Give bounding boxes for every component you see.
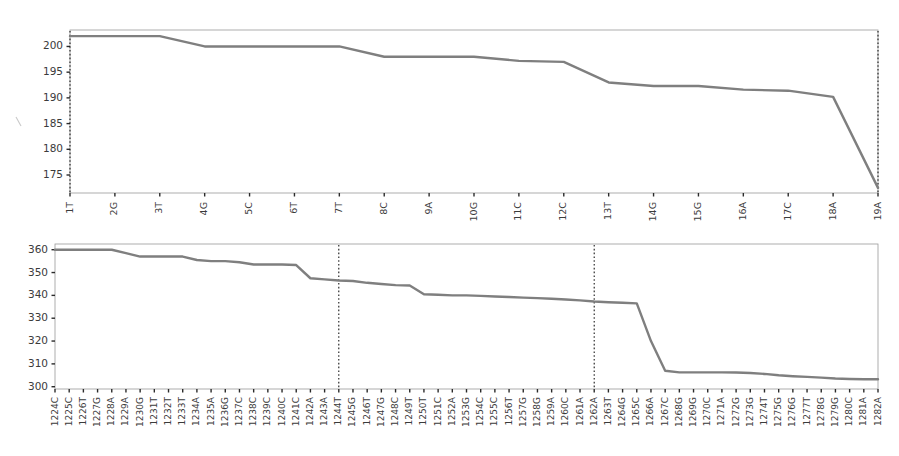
x-tick-label: 1279G	[830, 397, 840, 427]
x-tick-label: 1246T	[362, 397, 372, 426]
y-tick-label: 340	[28, 288, 48, 300]
x-tick-label: 7T	[333, 202, 344, 214]
x-tick-label: 1242A	[305, 396, 315, 426]
x-tick-label: 1225C	[64, 397, 74, 426]
y-tick-label: 195	[43, 65, 63, 77]
x-tick-label: 1253G	[461, 397, 471, 427]
x-tick-label: 12C	[557, 202, 568, 221]
x-tick-label: 18A	[827, 202, 838, 221]
x-tick-label: 11C	[512, 202, 523, 221]
x-tick-label: 1280C	[844, 397, 854, 426]
x-tick-label: 1251C	[433, 397, 443, 426]
x-tick-label: 1T	[64, 202, 75, 214]
x-tick-label: 1244T	[333, 397, 343, 426]
x-tick-label: 1265C	[631, 397, 641, 426]
x-tick-label: 1277T	[802, 397, 812, 426]
x-tick-label: 10G	[468, 202, 479, 221]
x-tick-label: 1254C	[475, 397, 485, 426]
x-tick-label: 1282A	[873, 396, 883, 426]
x-tick-label: 1241C	[291, 397, 301, 426]
x-tick-label: 1273G	[745, 397, 755, 427]
x-tick-label: 1249T	[404, 397, 414, 426]
chart-svg-bottom: 3003103203303403503601224C1225C1226T1227…	[0, 231, 899, 456]
plot-frame	[55, 244, 878, 389]
x-tick-label: 1248C	[390, 397, 400, 426]
x-tick-label: 1257G	[518, 397, 528, 427]
x-tick-label: 1231T	[149, 397, 159, 426]
y-tick-label: 200	[43, 39, 63, 51]
x-tick-label: 2G	[108, 202, 119, 215]
x-tick-label: 1247G	[376, 397, 386, 427]
x-tick-label: 1229A	[120, 396, 130, 426]
x-tick-label: 9A	[423, 202, 434, 215]
x-tick-label: 1234A	[191, 396, 201, 426]
y-tick-label: 320	[28, 334, 48, 346]
x-tick-label: 1274T	[759, 397, 769, 426]
x-tick-label: 1250T	[418, 397, 428, 426]
x-tick-label: 19A	[872, 202, 883, 221]
x-tick-label: 1268G	[674, 397, 684, 427]
x-tick-label: 1232T	[163, 397, 173, 426]
x-tick-label: 1235A	[206, 396, 216, 426]
x-tick-label: 15G	[692, 202, 703, 221]
x-tick-label: 1224C	[50, 397, 60, 426]
x-tick-label: 1230G	[135, 397, 145, 427]
x-tick-label: 1245G	[347, 397, 357, 427]
x-tick-label: 1255C	[489, 397, 499, 426]
x-tick-label: 17C	[782, 202, 793, 221]
x-tick-label: 1236G	[220, 397, 230, 427]
x-tick-label: 1233T	[177, 397, 187, 426]
x-tick-label: 1281A	[858, 396, 868, 426]
y-tick-label: 350	[28, 266, 48, 278]
y-tick-label: 300	[28, 380, 48, 392]
x-tick-label: 1266A	[645, 396, 655, 426]
x-tick-label: 1259A	[546, 396, 556, 426]
data-series-line	[55, 250, 878, 379]
x-tick-label: 1276G	[787, 397, 797, 427]
x-tick-label: 5C	[243, 202, 254, 215]
data-series-line	[70, 36, 878, 188]
y-tick-label: 330	[28, 311, 48, 323]
x-tick-label: 1239C	[262, 397, 272, 426]
chart-svg-top: 1751801851901952001T2G3T4G5C6T7T8C9A10G1…	[0, 0, 899, 230]
x-tick-label: 1240C	[277, 397, 287, 426]
y-tick-label: 185	[43, 117, 63, 129]
chart-figure: 1751801851901952001T2G3T4G5C6T7T8C9A10G1…	[0, 0, 899, 456]
x-tick-label: 1271A	[716, 396, 726, 426]
y-tick-label: 180	[43, 142, 63, 154]
y-tick-label: 360	[28, 243, 48, 255]
y-tick-label: 310	[28, 357, 48, 369]
x-tick-label: 6T	[288, 202, 299, 214]
x-tick-label: 3T	[153, 202, 164, 214]
y-tick-label: 190	[43, 91, 63, 103]
x-tick-label: 1243A	[319, 396, 329, 426]
x-tick-label: 8C	[378, 202, 389, 215]
x-tick-label: 13T	[602, 202, 613, 220]
x-tick-label: 16A	[737, 202, 748, 221]
x-tick-label: 1267C	[660, 397, 670, 426]
scan-artifact-mark	[16, 117, 21, 126]
x-tick-label: 1270C	[702, 397, 712, 426]
x-tick-label: 1262A	[589, 396, 599, 426]
x-tick-label: 1269G	[688, 397, 698, 427]
x-tick-label: 1256T	[504, 397, 514, 426]
plot-frame	[70, 30, 878, 193]
x-tick-label: 1272G	[731, 397, 741, 427]
x-tick-label: 1252A	[447, 396, 457, 426]
x-tick-label: 1278G	[816, 397, 826, 427]
chart-panel-bottom: 3003103203303403503601224C1225C1226T1227…	[0, 231, 899, 456]
x-tick-label: 1227G	[92, 397, 102, 427]
x-tick-label: 1264G	[617, 397, 627, 427]
x-tick-label: 1226T	[78, 397, 88, 426]
x-tick-label: 1228A	[106, 396, 116, 426]
x-tick-label: 1275G	[773, 397, 783, 427]
x-tick-label: 1258G	[532, 397, 542, 427]
x-tick-label: 1237C	[234, 397, 244, 426]
x-tick-label: 1260C	[560, 397, 570, 426]
x-tick-label: 1238C	[248, 397, 258, 426]
x-tick-label: 1263T	[603, 397, 613, 426]
chart-panel-top: 1751801851901952001T2G3T4G5C6T7T8C9A10G1…	[0, 0, 899, 230]
x-tick-label: 4G	[198, 202, 209, 215]
x-tick-label: 14G	[647, 202, 658, 221]
x-tick-label: 1261A	[575, 396, 585, 426]
